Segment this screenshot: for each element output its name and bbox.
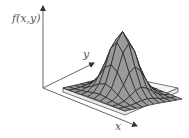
x-axis-label: x bbox=[115, 120, 122, 133]
y-axis-label: y bbox=[82, 48, 90, 61]
gaussian-surface bbox=[63, 32, 182, 112]
surface-diagram: f(x,y) y x bbox=[0, 0, 189, 138]
f-axis-label: f(x,y) bbox=[11, 12, 41, 25]
